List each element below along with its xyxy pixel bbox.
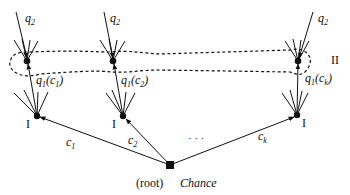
information-set-label: II — [331, 53, 339, 67]
player1-label-2: I — [112, 117, 116, 131]
player1-label-1: I — [26, 117, 30, 131]
chance-edges — [40, 117, 294, 165]
q2-label-1: q2 — [25, 11, 35, 27]
q2-label-k: q2 — [318, 11, 328, 27]
chance-edge-label-1: c1 — [66, 135, 75, 151]
chance-edge-label-k: ck — [258, 129, 267, 145]
q1-label-1: q1(c1) — [36, 73, 63, 89]
q1-label-k: q1(ck) — [305, 71, 332, 87]
player1-node-1 — [14, 64, 48, 119]
chance-label: Chance — [180, 176, 217, 190]
q2-label-2: q2 — [110, 11, 120, 27]
root-label: (root) — [136, 176, 163, 190]
game-tree-diagram: q2 q2 q2 q1(c1) q1(c2) q1(ck) II I I I c… — [0, 0, 350, 195]
q1-label-2: q1(c2) — [121, 73, 148, 89]
ellipsis: · · · — [188, 132, 205, 144]
chance-root-node — [166, 161, 174, 169]
information-set-II — [10, 49, 311, 76]
player1-label-k: I — [302, 116, 306, 130]
chance-edge-label-2: c2 — [128, 133, 137, 149]
